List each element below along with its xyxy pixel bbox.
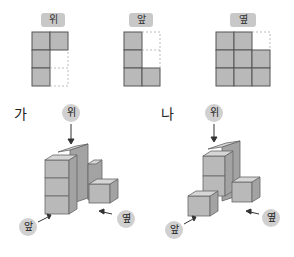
figure-na-side-bubble: 옆 xyxy=(262,209,280,227)
figure-na-cubes xyxy=(188,141,260,216)
figure-ga-label: 가 xyxy=(14,103,27,123)
figure-na-top-bubble: 위 xyxy=(205,104,223,122)
figure-ga-side-bubble: 옆 xyxy=(117,210,135,228)
figure-na-front-bubble: 앞 xyxy=(165,221,183,239)
figure-ga-cubes xyxy=(45,144,118,214)
figure-ga-front-bubble: 앞 xyxy=(19,218,37,236)
figure-na-label: 나 xyxy=(161,103,174,123)
figure-ga-top-bubble: 위 xyxy=(62,104,80,122)
diagram-canvas xyxy=(0,0,294,257)
front-view-grid xyxy=(124,32,160,86)
top-view-grid xyxy=(32,32,68,86)
side-view-grid xyxy=(216,32,270,86)
